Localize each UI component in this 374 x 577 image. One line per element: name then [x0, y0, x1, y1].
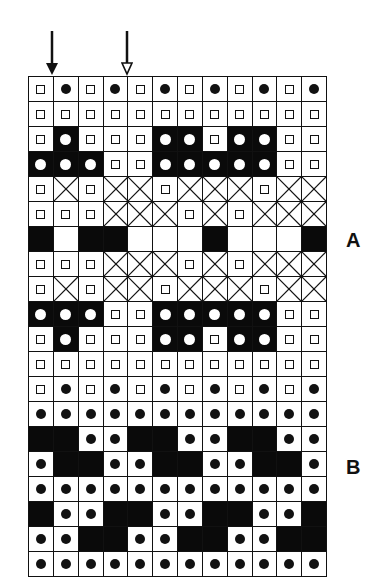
black-dot-icon — [210, 559, 220, 569]
grid-cell — [128, 452, 153, 477]
grid-cell — [302, 302, 327, 327]
grid-cell — [79, 127, 104, 152]
black-cell — [302, 527, 327, 552]
grid-cell — [203, 127, 228, 152]
grid-cell — [104, 127, 129, 152]
black-dot-icon — [36, 559, 46, 569]
open-square-icon — [210, 335, 219, 344]
grid-cell — [178, 77, 203, 102]
white-dot-icon — [60, 334, 71, 345]
black-cell — [228, 502, 253, 527]
open-square-icon — [310, 160, 319, 169]
black-cell — [203, 502, 228, 527]
grid-cell — [178, 102, 203, 127]
black-cell — [29, 502, 54, 527]
open-square-icon — [185, 385, 194, 394]
cross-icon — [203, 202, 227, 226]
grid-cell — [302, 477, 327, 502]
white-dot-icon — [35, 309, 46, 320]
black-cell — [104, 527, 129, 552]
grid-cell — [277, 302, 302, 327]
grid-cell — [79, 502, 104, 527]
grid-cell — [253, 77, 278, 102]
white-dot-icon — [184, 134, 195, 145]
crossed-cell — [54, 177, 79, 202]
open-square-icon — [185, 210, 194, 219]
grid-cell — [79, 402, 104, 427]
open-square-icon — [285, 310, 294, 319]
black-dot-icon — [110, 484, 120, 494]
grid-cell — [203, 377, 228, 402]
grid-cell — [302, 552, 327, 577]
grid-cell — [228, 402, 253, 427]
cross-icon — [203, 252, 227, 276]
crossed-cell — [153, 252, 178, 277]
white-dot-icon — [259, 334, 270, 345]
black-dot-icon — [284, 509, 294, 519]
grid-cell — [277, 77, 302, 102]
black-dot-icon — [309, 384, 319, 394]
cross-icon — [277, 277, 301, 301]
cross-icon — [128, 202, 152, 226]
white-cell — [153, 227, 178, 252]
black-dot-icon — [284, 484, 294, 494]
black-dot-icon — [259, 84, 269, 94]
grid-cell — [79, 152, 104, 177]
open-square-icon — [86, 135, 95, 144]
grid-cell — [178, 202, 203, 227]
grid-cell — [79, 552, 104, 577]
crossed-cell — [302, 177, 327, 202]
white-dot-icon — [160, 159, 171, 170]
grid-cell — [128, 477, 153, 502]
black-dot-icon — [210, 84, 220, 94]
grid-cell — [153, 352, 178, 377]
crossed-cell — [277, 177, 302, 202]
grid-cell — [178, 127, 203, 152]
black-dot-icon — [160, 409, 170, 419]
black-dot-icon — [284, 559, 294, 569]
grid-cell — [29, 102, 54, 127]
black-dot-icon — [110, 384, 120, 394]
grid-cell — [153, 527, 178, 552]
grid-cell — [203, 477, 228, 502]
grid-cell — [302, 427, 327, 452]
grid-cell — [128, 152, 153, 177]
grid-cell — [128, 302, 153, 327]
cross-icon — [104, 252, 128, 276]
grid-cell — [79, 102, 104, 127]
cross-icon — [277, 177, 301, 201]
open-square-icon — [310, 335, 319, 344]
black-dot-icon — [86, 409, 96, 419]
grid-cell — [302, 327, 327, 352]
open-square-icon — [86, 285, 95, 294]
black-dot-icon — [160, 509, 170, 519]
open-square-icon — [260, 285, 269, 294]
grid-cell — [228, 377, 253, 402]
grid-cell — [253, 277, 278, 302]
grid-cell — [178, 252, 203, 277]
grid-cell — [277, 127, 302, 152]
grid-cell — [228, 352, 253, 377]
grid-cell — [104, 427, 129, 452]
grid-cell — [277, 502, 302, 527]
open-square-icon — [285, 135, 294, 144]
black-cell — [54, 452, 79, 477]
black-cell — [79, 452, 104, 477]
grid-cell — [104, 377, 129, 402]
white-dot-icon — [60, 134, 71, 145]
crossed-cell — [153, 202, 178, 227]
grid-cell — [153, 177, 178, 202]
black-dot-icon — [36, 484, 46, 494]
grid-cell — [228, 152, 253, 177]
grid-cell — [29, 402, 54, 427]
grid-cell — [253, 152, 278, 177]
open-square-icon — [111, 160, 120, 169]
grid-cell — [253, 177, 278, 202]
white-dot-icon — [85, 159, 96, 170]
white-dot-icon — [85, 309, 96, 320]
grid-cell — [54, 327, 79, 352]
grid-cell — [203, 77, 228, 102]
grid-cell — [104, 152, 129, 177]
black-dot-icon — [110, 409, 120, 419]
cross-icon — [54, 177, 78, 201]
